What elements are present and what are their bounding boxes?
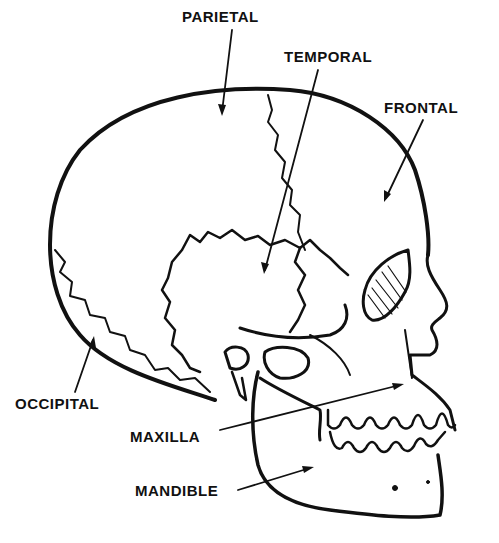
label-parietal: PARIETAL (182, 8, 259, 25)
coronal-suture (268, 95, 305, 250)
teeth-lower (330, 432, 445, 452)
orbit (363, 250, 410, 320)
occipital-pointer (75, 340, 93, 392)
label-temporal: TEMPORAL (284, 48, 372, 65)
parietal-pointer (222, 30, 232, 112)
temporal-suture (162, 230, 348, 372)
cranium-outline (50, 89, 428, 400)
label-maxilla: MAXILLA (130, 428, 200, 445)
frontal-pointer (386, 120, 423, 198)
teeth-upper (328, 410, 455, 429)
maxilla-pointer (220, 385, 400, 430)
face-outline (410, 255, 455, 430)
temporal-front (290, 248, 305, 332)
label-occipital: OCCIPITAL (15, 395, 99, 412)
mandible-ramus (260, 378, 321, 440)
label-mandible: MANDIBLE (135, 482, 218, 499)
mandible-pointer (238, 468, 310, 490)
skull-diagram (0, 0, 499, 543)
label-frontal: FRONTAL (384, 99, 458, 116)
styloid (232, 372, 246, 400)
zygomatic-arch (240, 305, 347, 338)
ear-region (225, 347, 309, 378)
